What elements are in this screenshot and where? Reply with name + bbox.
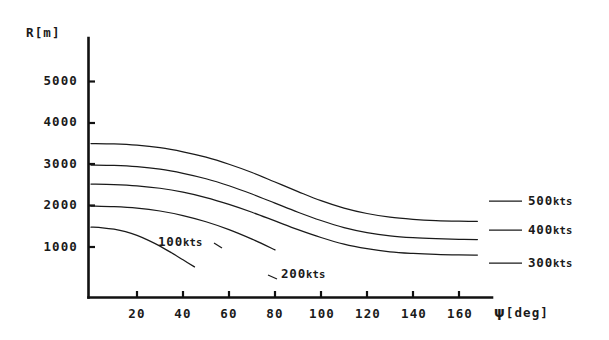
x-tick-label-100: 100 bbox=[309, 308, 335, 321]
curve-label-300kts-unit: kts bbox=[553, 257, 573, 269]
legend-leader-lines bbox=[489, 201, 522, 263]
y-tick-label-1000: 1000 bbox=[20, 241, 78, 254]
data-curves bbox=[91, 144, 477, 267]
x-tick-label-140: 140 bbox=[401, 308, 427, 321]
chart-plot-area bbox=[0, 0, 609, 340]
leader-line-200kts bbox=[268, 275, 277, 279]
x-tick-label-60: 60 bbox=[220, 308, 237, 321]
x-tick-label-20: 20 bbox=[128, 308, 145, 321]
curve-label-400kts: 400kts bbox=[528, 224, 573, 237]
curve-label-500kts-value: 500 bbox=[528, 193, 553, 208]
curve-label-500kts-unit: kts bbox=[553, 195, 573, 207]
curve-400kts bbox=[91, 165, 477, 239]
x-axis-ticks bbox=[137, 291, 459, 297]
x-tick-label-80: 80 bbox=[266, 308, 283, 321]
y-tick-label-3000: 3000 bbox=[20, 158, 78, 171]
psi-symbol: ψ bbox=[494, 304, 506, 320]
curve-label-100kts-value: 100 bbox=[158, 234, 183, 249]
curve-label-500kts: 500kts bbox=[528, 195, 573, 208]
x-tick-label-40: 40 bbox=[174, 308, 191, 321]
x-tick-label-160: 160 bbox=[447, 308, 473, 321]
y-tick-label-5000: 5000 bbox=[20, 75, 78, 88]
curve-label-400kts-value: 400 bbox=[528, 222, 553, 237]
chart-figure: R[m] 5000 4000 3000 2000 1000 20 40 60 8… bbox=[0, 0, 609, 340]
y-tick-label-4000: 4000 bbox=[20, 116, 78, 129]
y-axis-title: R[m] bbox=[26, 27, 61, 40]
y-tick-label-2000: 2000 bbox=[20, 199, 78, 212]
curve-label-200kts: 200kts bbox=[281, 268, 326, 281]
curve-label-300kts-value: 300 bbox=[528, 255, 553, 270]
curve-label-400kts-unit: kts bbox=[553, 224, 573, 236]
curve-label-300kts: 300kts bbox=[528, 257, 573, 270]
leader-line-100kts bbox=[214, 243, 222, 248]
curve-label-100kts: 100kts bbox=[158, 236, 203, 249]
x-tick-label-120: 120 bbox=[355, 308, 381, 321]
x-axis-unit: [deg] bbox=[506, 305, 549, 320]
inline-leader-lines bbox=[214, 243, 277, 279]
curve-label-200kts-value: 200 bbox=[281, 266, 306, 281]
curve-label-100kts-unit: kts bbox=[183, 236, 203, 248]
x-axis-title: ψ[deg] bbox=[494, 306, 549, 320]
curve-label-200kts-unit: kts bbox=[306, 268, 326, 280]
